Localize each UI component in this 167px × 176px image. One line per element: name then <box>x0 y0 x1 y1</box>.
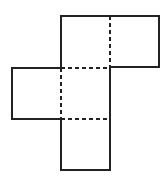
fold-lines <box>61 16 110 119</box>
cube-net-diagram <box>0 0 167 176</box>
net-outline <box>12 16 159 170</box>
